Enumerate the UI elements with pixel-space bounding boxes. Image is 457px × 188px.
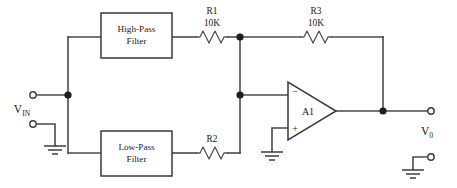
resistor-r3: R3 10K	[308, 6, 324, 28]
wire-input-ground-lead	[36, 124, 55, 146]
vout-subscript: 0	[429, 131, 433, 140]
low-pass-filter-label-line2: Filter	[127, 154, 147, 164]
wire-output-ground-lead	[413, 157, 428, 170]
ground-symbol-input	[44, 146, 66, 154]
opamp-inverting-sign: −	[292, 86, 298, 97]
circuit-schematic-canvas: High-Pass Filter Low-Pass Filter R1 10K …	[0, 0, 457, 188]
high-pass-filter-label-line2: Filter	[127, 36, 147, 46]
resistor-r1-designator: R1	[207, 6, 218, 16]
junction-dot-output	[379, 107, 386, 114]
opamp-a1-designator: A1	[302, 106, 314, 117]
vin-subscript: IN	[22, 109, 31, 118]
resistor-r2-symbol	[196, 147, 228, 159]
opamp-a1[interactable]: A1 − +	[288, 82, 336, 140]
low-pass-filter-label-line1: Low-Pass	[118, 142, 155, 152]
resistor-r1-symbol	[196, 31, 228, 43]
vout-label: V0	[421, 125, 433, 140]
ground-symbol-opamp	[261, 152, 283, 160]
junction-dot-input-bus	[64, 91, 71, 98]
high-pass-filter-label-line1: High-Pass	[118, 24, 156, 34]
resistor-r1-value: 10K	[204, 18, 220, 28]
junction-dot-summing	[236, 91, 243, 98]
resistor-r1: R1 10K	[204, 6, 220, 28]
ground-symbol-output	[402, 170, 424, 178]
vout-label-group: V0	[421, 125, 433, 140]
resistor-r3-value: 10K	[308, 18, 324, 28]
wire-network	[36, 31, 428, 170]
vin-positive-terminal[interactable]	[30, 92, 36, 98]
resistor-r3-designator: R3	[311, 6, 322, 16]
port-terminals	[30, 92, 434, 160]
vin-label-group: VIN	[14, 103, 31, 118]
resistor-r3-symbol	[300, 31, 332, 43]
wire-noninverting-to-ground	[272, 128, 288, 152]
vin-label: VIN	[14, 103, 31, 118]
vout-positive-terminal[interactable]	[428, 108, 434, 114]
low-pass-filter-block[interactable]: Low-Pass Filter	[101, 131, 172, 176]
opamp-noninverting-sign: +	[292, 123, 298, 134]
vin-ground-terminal[interactable]	[30, 121, 36, 127]
junction-dot-feedback-top	[236, 33, 243, 40]
vout-ground-terminal[interactable]	[428, 154, 434, 160]
circuit-diagram: High-Pass Filter Low-Pass Filter R1 10K …	[0, 0, 457, 188]
resistor-r2-designator: R2	[207, 134, 218, 144]
high-pass-filter-block[interactable]: High-Pass Filter	[101, 13, 172, 58]
resistor-r2: R2	[207, 134, 218, 144]
